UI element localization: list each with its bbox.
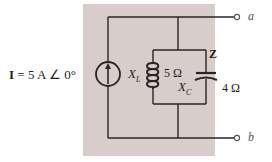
inductor-symbol: X <box>128 66 136 81</box>
capacitor-value: 4 Ω <box>222 82 240 94</box>
capacitor-reactance-label: XC <box>178 80 191 97</box>
impedance-label: Z <box>209 48 217 60</box>
source-current-label: I = 5 A ∠ 0° <box>9 68 76 81</box>
inductor-reactance-label: XL <box>128 67 140 84</box>
inductor-subscript: L <box>136 75 140 84</box>
source-symbol: I <box>9 67 14 82</box>
source-angle-symbol: ∠ <box>49 67 61 82</box>
source-magnitude: 5 A <box>28 67 46 82</box>
terminal-b-label: b <box>248 131 254 143</box>
inductor-value: 5 Ω <box>164 67 182 79</box>
terminal-b-node <box>234 135 239 140</box>
capacitor-symbol: X <box>178 79 186 94</box>
source-equals: = <box>17 67 24 82</box>
terminal-a-label: a <box>248 10 254 22</box>
terminal-a-node <box>234 14 239 19</box>
capacitor-subscript: C <box>186 88 191 97</box>
source-phase: 0° <box>64 67 76 82</box>
